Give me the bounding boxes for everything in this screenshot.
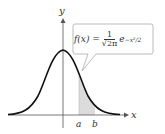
formula-exponent: −x²/2 [125,36,142,43]
formula-fraction: 1 √2π [102,31,117,48]
y-axis-label: y [58,5,65,16]
x-axis-label: x [131,109,137,120]
tick-a-label: a [76,119,81,129]
normal-curve-diagram: y x a b [0,0,165,134]
formula-denominator: √2π [102,40,117,48]
formula: f(x) = 1 √2π e−x²/2 [74,25,152,53]
y-axis-arrow-icon [61,18,66,23]
x-axis-arrow-icon [124,113,129,118]
formula-lhs: f(x) = [74,34,100,44]
tick-b-label: b [92,119,98,129]
bell-curve [8,50,120,115]
